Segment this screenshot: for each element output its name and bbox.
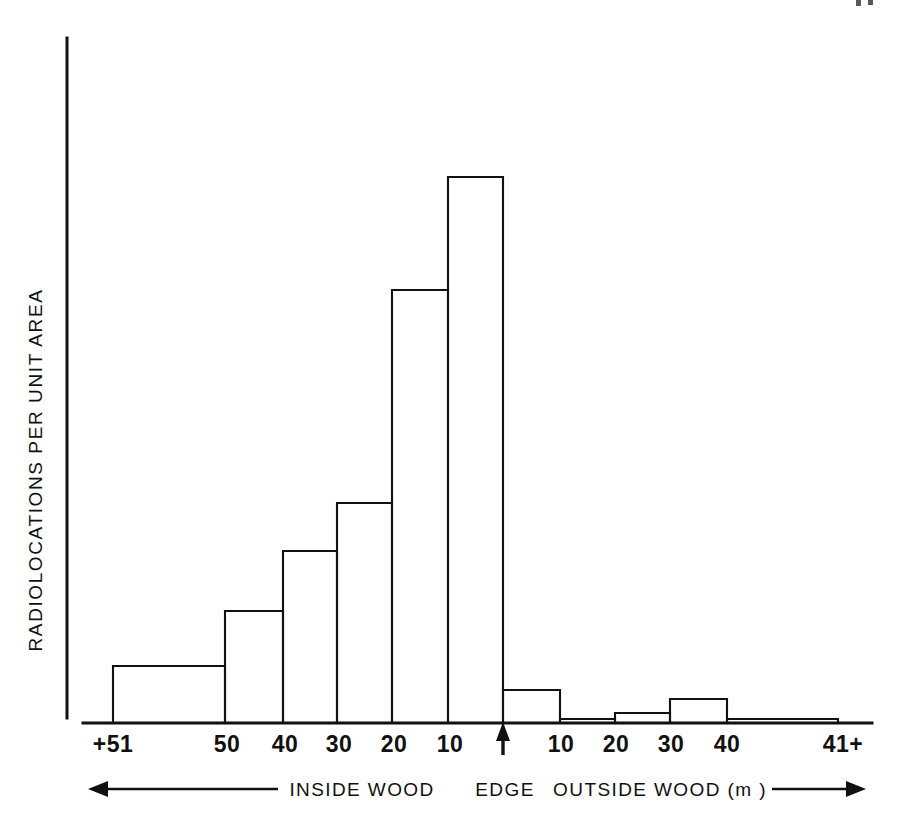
tick-label-plus51: +51 (93, 731, 134, 757)
tick-label-inside-20: 20 (381, 731, 408, 757)
bar-inside-30-20 (337, 503, 392, 723)
figure-container: RADIOLOCATIONS PER UNIT AREA +51 50 40 3… (0, 0, 904, 829)
x-axis-tick-labels: +51 50 40 30 20 10 10 20 30 40 41+ (93, 731, 864, 757)
tick-label-41plus: 41+ (823, 731, 864, 757)
scan-artifact (856, 0, 873, 6)
tick-label-outside-10: 10 (548, 731, 575, 757)
bar-series (113, 177, 838, 723)
caption-inside-wood: INSIDE WOOD (289, 779, 434, 800)
up-arrow-icon (496, 722, 510, 755)
tick-label-inside-50: 50 (214, 731, 241, 757)
bar-outside-30-40 (670, 699, 727, 723)
tick-label-inside-40: 40 (272, 731, 299, 757)
bar-inside-10-0 (448, 177, 503, 723)
tick-label-inside-30: 30 (326, 731, 353, 757)
tick-label-outside-20: 20 (603, 731, 630, 757)
tick-label-inside-10: 10 (437, 731, 464, 757)
bar-outside-0-10 (503, 690, 560, 723)
bar-inside-50-40 (225, 611, 283, 723)
bar-inside-20-10 (392, 290, 448, 723)
caption-row: INSIDE WOOD EDGE OUTSIDE WOOD (m ) (88, 779, 866, 800)
histogram-chart: RADIOLOCATIONS PER UNIT AREA +51 50 40 3… (0, 0, 904, 829)
caption-edge: EDGE (475, 779, 534, 800)
y-axis-label: RADIOLOCATIONS PER UNIT AREA (25, 289, 46, 652)
bar-inside-40-30 (283, 551, 337, 723)
left-arrow-icon (88, 781, 278, 797)
bar-inside-51-50 (113, 666, 225, 723)
right-arrow-icon (772, 781, 866, 797)
caption-outside-wood: OUTSIDE WOOD (m ) (553, 779, 767, 800)
tick-label-outside-40: 40 (714, 731, 741, 757)
tick-label-outside-30: 30 (658, 731, 685, 757)
